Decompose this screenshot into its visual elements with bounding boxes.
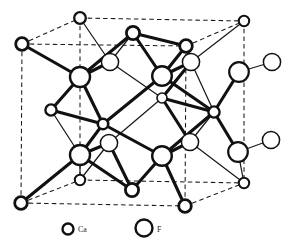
f-lower-right-atom <box>152 146 172 166</box>
cell-edge-front-left <box>21 44 22 203</box>
f-upper-right-atom <box>152 66 172 86</box>
f-out-upper-atom <box>229 62 249 82</box>
ca-top-face-atom <box>126 26 139 39</box>
cell-edge-back-top <box>80 18 244 21</box>
cell-edge-depth-bottom-right <box>185 183 244 206</box>
bonds-thick <box>21 33 239 206</box>
fluorite-structure-figure: Ca F <box>0 0 295 251</box>
legend: Ca F <box>63 220 163 237</box>
legend-f-marker <box>136 220 153 237</box>
cell-edge-depth-bottom-left <box>21 180 80 203</box>
crystal-structure-diagram: Ca F <box>0 0 295 251</box>
f-upper-far-right-atom <box>182 53 199 70</box>
bond-thin-8 <box>109 98 162 143</box>
ca-back-face-atom <box>157 93 167 103</box>
ca-back-top-right-atom <box>239 16 249 26</box>
ca-bot-face-atom <box>125 183 138 196</box>
cell-edge-front-top <box>22 44 186 46</box>
f-upper-left-atom <box>70 67 90 87</box>
legend-f-label: F <box>157 225 162 234</box>
ca-back-bot-left-atom <box>75 175 85 185</box>
legend-ca-label: Ca <box>78 225 87 234</box>
ca-front-face-atom <box>98 119 108 129</box>
f-ext-upper-atom <box>263 53 280 70</box>
ca-back-bot-right-atom <box>239 178 249 188</box>
ca-right-face-atom <box>208 106 219 117</box>
f-out-lower-atom <box>228 142 248 162</box>
bond-thick-10 <box>21 155 80 203</box>
cell-edge-depth-top-right <box>186 21 244 46</box>
f-lower-left-atom <box>70 145 90 165</box>
ca-left-face-atom <box>45 104 56 115</box>
f-ext-lower-atom <box>262 131 279 148</box>
ca-back-top-left-atom <box>74 12 86 24</box>
ca-front-top-left-atom <box>16 38 29 51</box>
cell-edge-back-bottom <box>80 180 244 183</box>
f-lower-far-right-atom <box>181 133 198 150</box>
bond-thick-7 <box>103 76 162 124</box>
bond-thin-4 <box>191 21 244 62</box>
ca-front-bot-left-atom <box>15 197 28 210</box>
f-lower-mid-atom <box>100 134 117 151</box>
f-upper-mid-atom <box>101 53 118 70</box>
ca-front-bot-right-atom <box>179 200 192 213</box>
cell-edge-front-bottom <box>21 203 185 206</box>
cell-edge-depth-top-left <box>22 18 80 44</box>
ca-front-top-right-atom <box>180 40 193 53</box>
legend-ca-marker <box>63 224 74 235</box>
